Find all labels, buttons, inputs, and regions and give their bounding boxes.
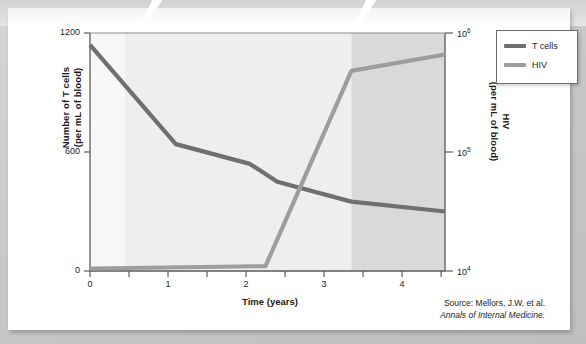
legend-label-t-cells: T cells [532,41,558,51]
x-tick-label-2: 2 [236,279,256,289]
x-tick-label-0: 0 [80,279,100,289]
y-tick-label-600: 600 [46,146,80,156]
y-axis-left-label-line1: Number of T cells [60,67,71,148]
x-axis-label: Time (years) [200,296,340,307]
figure-root: Number of T cells (per mL of blood) HIV … [0,0,586,344]
legend-item-t-cells: T cells [504,41,558,51]
x-tick-label-3: 3 [314,279,334,289]
y-axis-right-label: HIV (per mL of blood) [489,74,512,170]
y2-tick-label-6: 106 [457,27,491,39]
legend-swatch-t-cells [504,44,526,48]
background-bands [90,33,445,271]
source-line-2: Annals of Internal Medicine. [440,310,545,320]
x-tick-label-4: 4 [392,279,412,289]
legend-swatch-hiv [504,63,526,67]
legend-label-hiv: HIV [532,60,547,70]
source-citation: Source: Mellors, J.W. et al. Annals of I… [345,298,545,321]
y-axis-left-label-line2: (per mL of blood) [71,68,82,148]
y-tick-label-1200: 1200 [46,27,80,37]
x-tick-label-1: 1 [158,279,178,289]
y-tick-label-0: 0 [46,265,80,275]
y-axis-right-label-line1: HIV [501,113,512,129]
source-line-1: Source: Mellors, J.W. et al. [444,298,545,308]
band-acute [90,33,125,271]
y2-tick-label-4: 104 [457,265,491,277]
y2-tick-label-5: 105 [457,146,491,158]
chart-legend: T cells HIV [496,30,578,84]
legend-item-hiv: HIV [504,60,547,70]
